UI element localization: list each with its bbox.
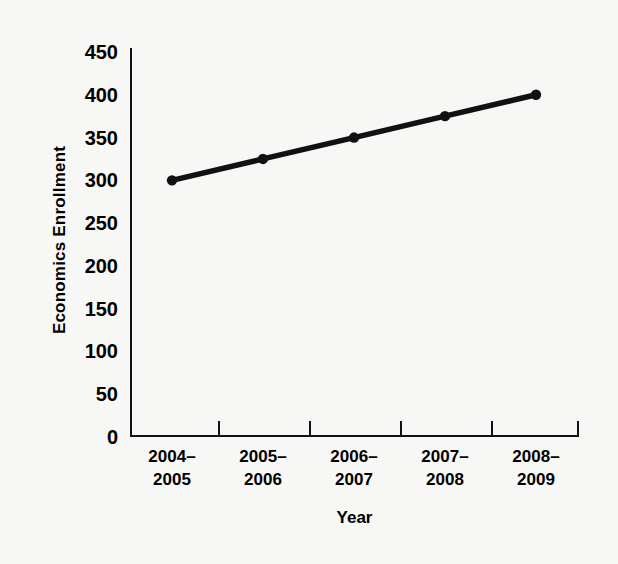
plot-area: 2004–2005: 3002005–2006: 3252006–2007: 3… bbox=[130, 48, 579, 438]
x-axis-tick-label: 2008– 2009 bbox=[512, 446, 559, 492]
y-axis-tick-label: 150 bbox=[0, 299, 124, 319]
series-line-economics-enrollment: 2004–2005: 3002005–2006: 3252006–2007: 3… bbox=[130, 48, 579, 438]
line-chart-figure: Economics Enrollment 0501001502002503003… bbox=[0, 0, 618, 564]
y-axis-tick-label: 450 bbox=[0, 42, 124, 62]
y-axis-tick-label: 300 bbox=[0, 170, 124, 190]
x-axis-tick bbox=[218, 421, 220, 436]
x-axis-tick-label: 2006– 2007 bbox=[330, 446, 377, 492]
y-axis-tick-label: 50 bbox=[0, 384, 124, 404]
x-axis-tick-label: 2007– 2008 bbox=[421, 446, 468, 492]
x-axis-tick-labels: 2004– 20052005– 20062006– 20072007– 2008… bbox=[130, 446, 579, 502]
data-point-marker: 2005–2006: 325 bbox=[258, 154, 268, 164]
data-point-marker: 2008–2009: 400 bbox=[531, 90, 541, 100]
data-point-marker: 2007–2008: 375 bbox=[440, 111, 450, 121]
x-axis-tick-label: 2004– 2005 bbox=[148, 446, 195, 492]
y-axis-tick-label: 350 bbox=[0, 128, 124, 148]
data-point-marker: 2004–2005: 300 bbox=[167, 175, 177, 185]
x-axis-tick-label: 2005– 2006 bbox=[239, 446, 286, 492]
data-point-marker: 2006–2007: 350 bbox=[349, 132, 359, 142]
y-axis-tick-label: 250 bbox=[0, 213, 124, 233]
y-axis-tick-label: 100 bbox=[0, 341, 124, 361]
x-axis-title: Year bbox=[130, 508, 579, 528]
x-axis-tick bbox=[577, 421, 579, 436]
x-axis-tick bbox=[400, 421, 402, 436]
y-axis-tick-label: 0 bbox=[0, 427, 124, 447]
x-axis-tick bbox=[491, 421, 493, 436]
y-axis-tick-label: 200 bbox=[0, 256, 124, 276]
y-axis-tick-labels: 050100150200250300350400450 bbox=[0, 0, 124, 564]
y-axis-tick-label: 400 bbox=[0, 85, 124, 105]
x-axis-tick bbox=[309, 421, 311, 436]
